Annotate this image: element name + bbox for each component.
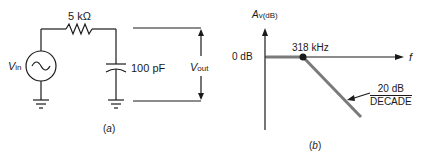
bode-plot <box>262 28 404 130</box>
source-label: Vin <box>8 61 22 72</box>
y-axis-label-sub: v(dB) <box>259 11 278 20</box>
slope-denominator: DECADE <box>370 96 412 108</box>
zero-db-label: 0 dB <box>232 52 253 62</box>
output-label-sub: out <box>197 64 208 73</box>
x-axis-arrow-icon <box>395 54 404 60</box>
y-axis-arrow-icon <box>262 28 268 36</box>
source-label-sub: in <box>15 63 21 72</box>
cutoff-point-icon <box>300 54 307 61</box>
slope-numerator: 20 dB <box>370 83 412 96</box>
resistor-icon <box>66 24 92 34</box>
ground-icon <box>108 100 124 108</box>
arrow-up-icon <box>198 29 204 36</box>
x-axis-label: f <box>409 52 412 63</box>
rc-circuit <box>26 24 201 108</box>
caption-b: (b) <box>309 141 321 151</box>
y-axis-label: Av(dB) <box>252 10 278 20</box>
slope-annotation: 20 dB DECADE <box>370 83 412 107</box>
annotation-arrow-icon <box>347 95 355 101</box>
output-label: Vout <box>190 62 208 73</box>
diagram-canvas <box>0 0 428 162</box>
ground-icon <box>33 100 49 108</box>
resistor-label: 5 kΩ <box>68 11 91 22</box>
caption-a-text: a <box>106 123 112 134</box>
caption-b-text: b <box>312 140 318 151</box>
cutoff-label: 318 kHz <box>292 43 329 53</box>
y-axis-label-main: A <box>252 9 259 20</box>
arrow-down-icon <box>198 93 204 100</box>
capacitor-label: 100 pF <box>131 63 165 74</box>
caption-a: (a) <box>103 124 115 134</box>
